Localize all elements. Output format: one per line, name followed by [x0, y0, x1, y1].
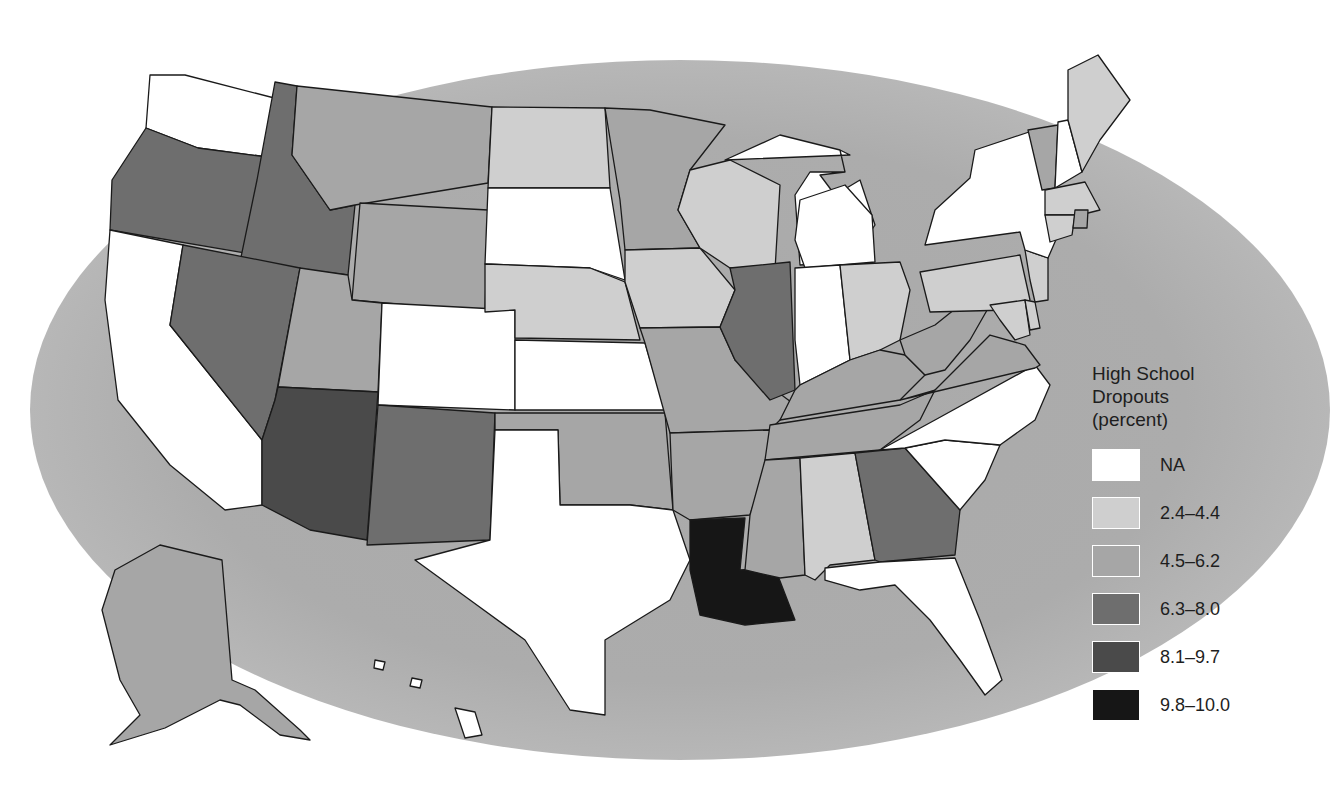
legend-item-4-5: 4.5–6.2	[1092, 537, 1272, 585]
state-connecticut	[1045, 215, 1075, 242]
state-florida	[825, 558, 1002, 695]
state-montana	[292, 86, 492, 210]
state-wyoming	[352, 203, 488, 312]
state-hawaii-island-oahu	[374, 660, 385, 670]
legend-swatch	[1092, 641, 1140, 673]
state-colorado	[378, 303, 515, 410]
legend-label: NA	[1160, 455, 1185, 476]
legend-item-2-4: 2.4–4.4	[1092, 489, 1272, 537]
legend-item-9-8: 9.8–10.0	[1092, 681, 1272, 729]
legend: High School Dropouts (percent) NA 2.4–4.…	[1092, 362, 1272, 729]
legend-item-na: NA	[1092, 441, 1272, 489]
legend-item-6-3: 6.3–8.0	[1092, 585, 1272, 633]
state-new-mexico	[367, 405, 495, 545]
legend-swatch	[1092, 545, 1140, 577]
state-maine	[1068, 55, 1130, 172]
legend-label: 6.3–8.0	[1160, 599, 1220, 620]
state-hawaii-island-maui	[410, 678, 422, 688]
state-ohio	[840, 262, 910, 360]
state-north-dakota	[488, 107, 610, 188]
legend-title-line: Dropouts	[1092, 385, 1272, 408]
legend-label: 9.8–10.0	[1160, 695, 1230, 716]
state-kansas	[515, 340, 665, 410]
legend-label: 2.4–4.4	[1160, 503, 1220, 524]
legend-title-line: (percent)	[1092, 408, 1272, 431]
legend-label: 8.1–9.7	[1160, 647, 1220, 668]
state-rhode-island	[1073, 210, 1088, 228]
legend-swatch	[1092, 449, 1140, 481]
legend-title: High School Dropouts (percent)	[1092, 362, 1272, 431]
state-arizona	[262, 387, 378, 540]
state-hawaii	[455, 708, 482, 738]
legend-swatch	[1092, 689, 1140, 721]
legend-swatch	[1092, 593, 1140, 625]
state-maryland	[990, 300, 1030, 340]
legend-label: 4.5–6.2	[1160, 551, 1220, 572]
legend-item-8-1: 8.1–9.7	[1092, 633, 1272, 681]
state-alaska	[102, 545, 310, 745]
legend-swatch	[1092, 497, 1140, 529]
legend-title-line: High School	[1092, 362, 1272, 385]
